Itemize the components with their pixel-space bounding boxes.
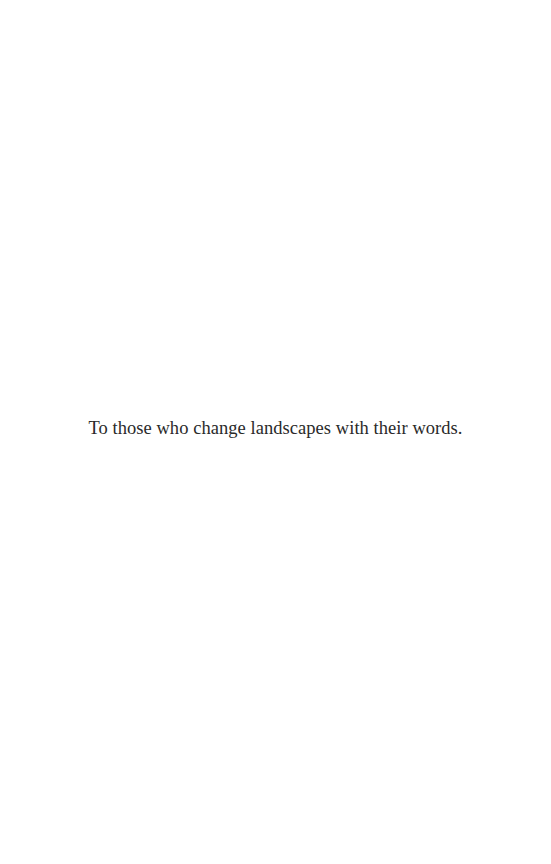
dedication-text: To those who change landscapes with thei…: [0, 417, 551, 439]
book-page: To those who change landscapes with thei…: [0, 0, 551, 864]
